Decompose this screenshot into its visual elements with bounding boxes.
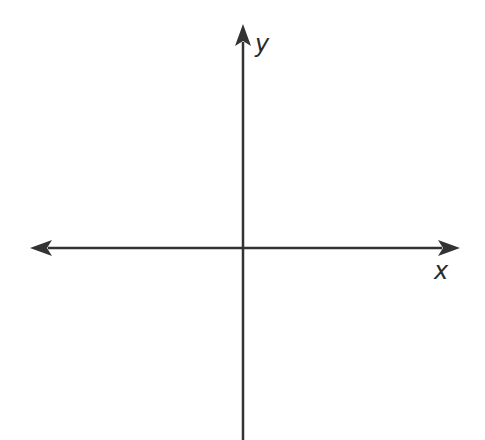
- x-axis: x: [30, 240, 460, 285]
- coordinate-plane: x y: [0, 0, 485, 440]
- y-axis-label: y: [254, 30, 270, 58]
- x-axis-label: x: [433, 257, 449, 285]
- y-axis: y: [235, 24, 270, 440]
